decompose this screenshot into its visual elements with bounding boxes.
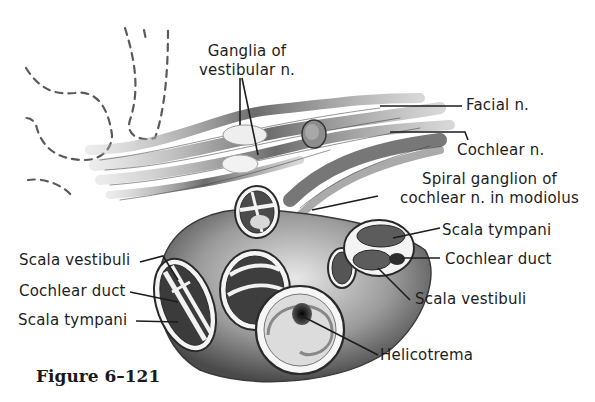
label-spiral-ganglion-line2: cochlear n. in modiolus: [392, 189, 587, 208]
label-cochlear-duct-right: Cochlear duct: [445, 250, 552, 269]
label-scala-tympani-right: Scala tympani: [442, 221, 551, 240]
right-cochlear-turn: [344, 220, 414, 276]
label-ganglia-vestibular: Ganglia of vestibular n.: [192, 42, 302, 80]
figure-caption: Figure 6–121: [36, 366, 160, 386]
label-scala-tympani-left: Scala tympani: [18, 311, 127, 330]
label-ganglia-line1: Ganglia of: [192, 42, 302, 61]
label-spiral-ganglion-line1: Spiral ganglion of: [392, 170, 587, 189]
label-cochlear-nerve: Cochlear n.: [457, 141, 544, 160]
label-ganglia-line2: vestibular n.: [192, 61, 302, 80]
label-scala-vestibuli-right: Scala vestibuli: [415, 290, 526, 309]
label-facial-nerve: Facial n.: [466, 96, 529, 115]
label-helicotrema: Helicotrema: [380, 346, 473, 365]
label-scala-vestibuli-left: Scala vestibuli: [19, 251, 130, 270]
label-cochlear-duct-left: Cochlear duct: [19, 282, 126, 301]
figure-page: Ganglia of vestibular n. Facial n. Cochl…: [0, 0, 595, 402]
label-spiral-ganglion: Spiral ganglion of cochlear n. in modiol…: [392, 170, 587, 208]
upper-cochlear-turn: [235, 186, 279, 238]
facial-nerve-section: [302, 120, 326, 148]
